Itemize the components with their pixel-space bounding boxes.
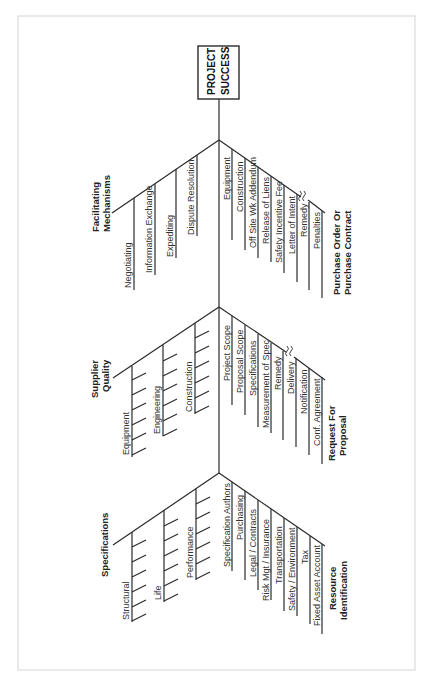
bone-label: Performance [185,526,195,578]
supplier-quality-bone [113,307,219,378]
bone-label: Penalties [312,211,322,249]
bone-label: Release of Liens [261,176,271,244]
category-label: Proposal [337,415,348,456]
page-frame [18,16,415,670]
project-success-box: PROJECT SUCCESS [198,46,239,99]
bone-label: Construction [184,361,194,412]
bone-label: Tax [300,549,310,564]
section-1: Negotiating Information Exchange Expedit… [90,140,353,298]
head-label-line2: SUCCESS [220,46,231,95]
fishbone-diagram: PROJECT SUCCESS Negotiating Information … [0,0,426,688]
bone-label: Legal / Contracts [248,508,258,577]
bone-label: Proposal Scope [235,329,245,393]
bone-label: Delivery [286,361,296,394]
category-label: Resource [327,567,338,610]
category-label: Supplier [89,360,100,398]
bone-label: Letter of Intent [287,195,297,254]
bone-label: Conf. Agreement [312,378,322,446]
bone-label: Purchasing [235,495,245,540]
bone-label: Safety / Environment [287,527,297,611]
bone-label: Risk Mgt / Insurance [261,519,271,601]
facilitating-mechanisms-bone [112,140,219,213]
bone-label: Construction [235,161,245,212]
bone-label: Negotiating [123,242,133,288]
category-label: Mechanisms [101,175,112,232]
bone-label: Structural [121,581,131,620]
bone-label: Notification [299,369,309,414]
specifications-bone [113,473,219,545]
head-label-line1: PROJECT [206,48,217,95]
bone-label: Specification Authors [222,482,232,567]
category-label: Identification [338,561,349,620]
category-label: Specifications [99,513,110,577]
bone-label: Safety Incentive Fee [274,181,284,263]
bone-label: Off Site Wk Addendum [248,157,258,248]
bone-label: Equipment [222,156,232,200]
category-label: Request For [326,405,337,461]
category-label: Purchase Order Or [331,210,342,295]
bone-label: Project Scope [222,325,232,381]
bone-label: Remedy [273,356,283,390]
bone-label: Expediting [165,215,175,257]
bone-label: Dispute Resolution [186,159,196,235]
bone-label: Fixed Asset Account [312,544,322,626]
bone-label: Life [153,585,163,600]
bone-label: Equipment [121,411,131,455]
bone-label: Specifications [248,340,258,396]
category-label: Quality [100,359,111,392]
bone-label: Information Exchange [144,185,154,273]
section-3: Structural Life Performance Specificatio… [99,473,349,634]
category-label: Facilitating [90,182,101,232]
bone-label: Engineering [152,386,162,434]
bone-label: Transportation [274,526,284,584]
bone-label: Remedy [299,203,309,237]
category-label: Purchase Contract [342,210,353,295]
bone-label: Measurement of Spec [261,339,271,428]
